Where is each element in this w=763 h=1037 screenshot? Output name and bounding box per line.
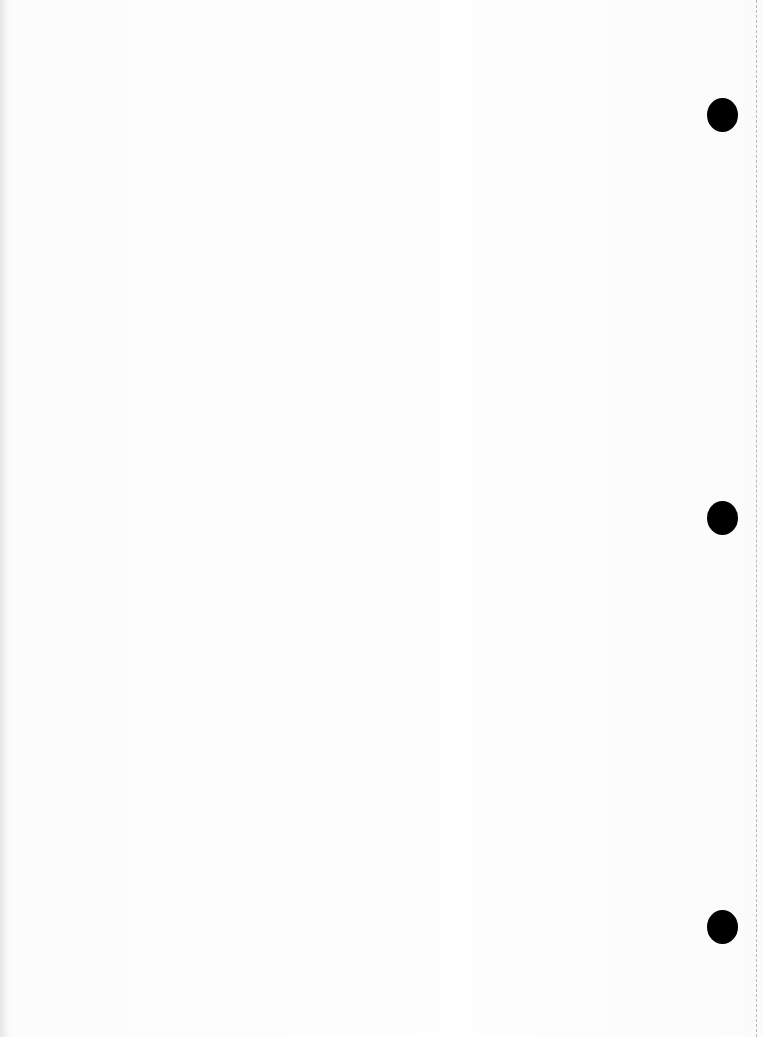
blank-page xyxy=(0,0,763,1037)
page-edge-shadow xyxy=(0,0,8,1037)
punch-hole-middle xyxy=(707,501,738,535)
perforation-line xyxy=(756,0,757,1037)
punch-hole-top xyxy=(707,98,738,132)
punch-hole-bottom xyxy=(707,910,738,944)
